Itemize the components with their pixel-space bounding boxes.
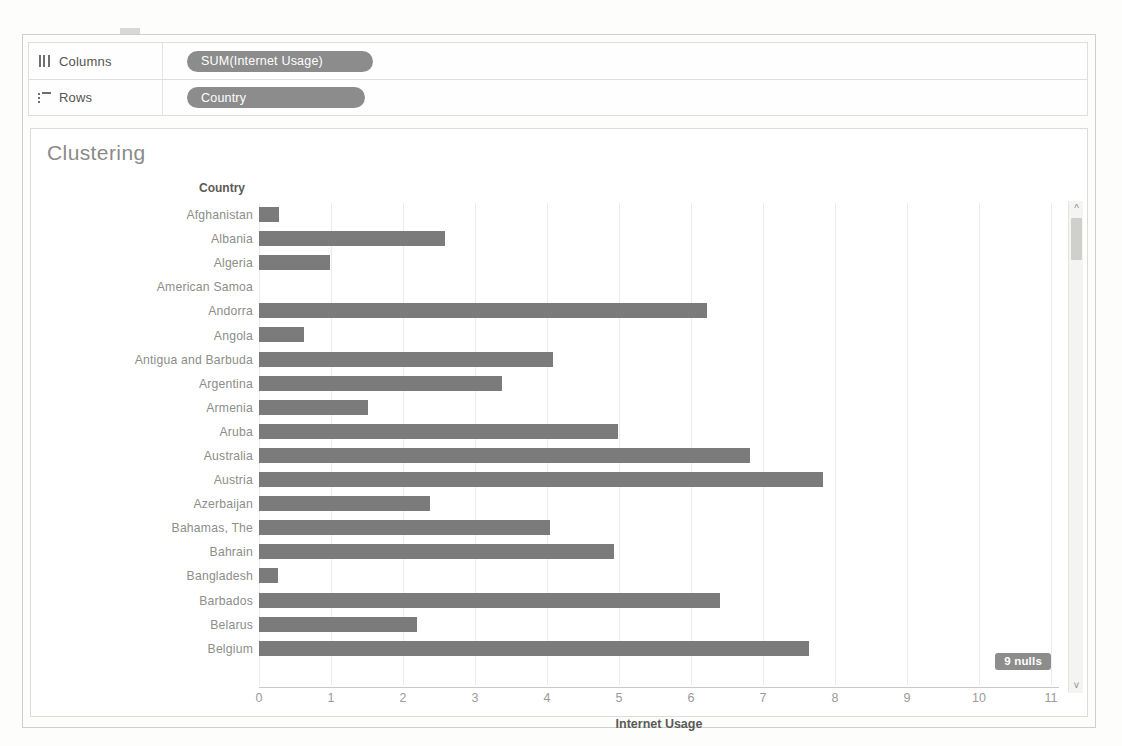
row-label[interactable]: Austria [31,473,259,487]
row-label[interactable]: Australia [31,449,259,463]
row-label[interactable]: Aruba [31,425,259,439]
bar[interactable] [259,376,502,391]
bar-track [259,227,1087,251]
x-tick-label: 2 [400,691,407,705]
bar-row[interactable]: Bahrain [31,540,1087,564]
bar[interactable] [259,352,553,367]
bar[interactable] [259,641,809,656]
bar-row[interactable]: Aruba [31,420,1087,444]
bar[interactable] [259,472,823,487]
bar-row[interactable]: Australia [31,444,1087,468]
bar[interactable] [259,448,750,463]
bar-row[interactable]: Angola [31,323,1087,347]
viz-card: Clustering Country AfghanistanAlbaniaAlg… [30,128,1088,717]
vertical-scrollbar[interactable]: ^ ˅ [1068,201,1083,693]
columns-drop-zone[interactable]: SUM(Internet Usage) [163,43,1087,79]
bar[interactable] [259,617,417,632]
row-label[interactable]: Argentina [31,377,259,391]
x-tick-label: 8 [832,691,839,705]
row-label[interactable]: Andorra [31,304,259,318]
bar[interactable] [259,520,550,535]
bar-track [259,251,1087,275]
bar-track [259,468,1087,492]
rows-drop-zone[interactable]: Country [163,80,1087,115]
bar-row[interactable]: Barbados [31,589,1087,613]
row-label[interactable]: Belgium [31,642,259,656]
shelf-area: Columns SUM(Internet Usage) Rows Country [28,42,1088,116]
x-tick-label: 11 [1045,691,1058,705]
bar-row[interactable]: American Samoa [31,275,1087,299]
row-label[interactable]: Armenia [31,401,259,415]
row-label[interactable]: Algeria [31,256,259,270]
bar-row[interactable]: Algeria [31,251,1087,275]
scrollbar-thumb[interactable] [1071,218,1082,260]
bar[interactable] [259,424,618,439]
bar-track [259,613,1087,637]
x-axis-ticks: 01234567891011 [259,691,1087,711]
bar-row[interactable]: Bahamas, The [31,516,1087,540]
tableau-worksheet: Columns SUM(Internet Usage) Rows Country… [0,0,1122,746]
bar[interactable] [259,327,304,342]
row-label[interactable]: Barbados [31,594,259,608]
scroll-down-icon[interactable]: ˅ [1069,678,1084,693]
bar[interactable] [259,400,368,415]
pill-country[interactable]: Country [187,87,365,108]
bar-row[interactable]: Belarus [31,613,1087,637]
columns-icon [38,55,51,67]
columns-shelf[interactable]: Columns SUM(Internet Usage) [28,42,1088,79]
bar-row[interactable]: Azerbaijan [31,492,1087,516]
bar-row[interactable]: Andorra [31,299,1087,323]
rows-shelf-label: Rows [59,90,92,105]
row-label[interactable]: Albania [31,232,259,246]
bar[interactable] [259,231,445,246]
bar-track [259,275,1087,299]
row-label[interactable]: Bangladesh [31,569,259,583]
chart-title: Clustering [47,141,146,165]
pill-sum-internet-usage[interactable]: SUM(Internet Usage) [187,51,373,72]
row-header-title: Country [199,181,245,195]
bar-track [259,203,1087,227]
bar[interactable] [259,303,707,318]
bar-row[interactable]: Afghanistan [31,203,1087,227]
bar-row[interactable]: Argentina [31,372,1087,396]
x-tick-label: 3 [472,691,479,705]
bar-track [259,372,1087,396]
bar[interactable] [259,255,330,270]
row-label[interactable]: Antigua and Barbuda [31,353,259,367]
row-label[interactable]: Afghanistan [31,208,259,222]
plot-area: Country AfghanistanAlbaniaAlgeriaAmerica… [31,181,1087,716]
row-label[interactable]: American Samoa [31,280,259,294]
columns-shelf-label-box: Columns [29,43,163,79]
row-label[interactable]: Bahamas, The [31,521,259,535]
bar-track [259,540,1087,564]
bar[interactable] [259,496,430,511]
bar-track [259,637,1087,661]
bar-rows: AfghanistanAlbaniaAlgeriaAmerican SamoaA… [31,203,1087,661]
bar-row[interactable]: Bangladesh [31,564,1087,588]
bar-row[interactable]: Armenia [31,396,1087,420]
x-tick-label: 10 [972,691,986,705]
bar-row[interactable]: Albania [31,227,1087,251]
row-label[interactable]: Angola [31,329,259,343]
scroll-up-icon[interactable]: ^ [1069,201,1084,216]
bar[interactable] [259,568,278,583]
bar-track [259,492,1087,516]
nulls-badge[interactable]: 9 nulls [995,653,1051,670]
x-tick-label: 9 [904,691,911,705]
rows-shelf[interactable]: Rows Country [28,79,1088,116]
row-label[interactable]: Bahrain [31,545,259,559]
row-label[interactable]: Azerbaijan [31,497,259,511]
bar-track [259,564,1087,588]
bar[interactable] [259,593,720,608]
bar-track [259,516,1087,540]
bar-row[interactable]: Austria [31,468,1087,492]
bar[interactable] [259,207,279,222]
bar-row[interactable]: Belgium [31,637,1087,661]
x-tick-label: 4 [544,691,551,705]
x-tick-label: 1 [328,691,335,705]
bar-row[interactable]: Antigua and Barbuda [31,348,1087,372]
row-label[interactable]: Belarus [31,618,259,632]
x-axis-line [259,687,1059,688]
bar[interactable] [259,544,614,559]
bar-track [259,323,1087,347]
